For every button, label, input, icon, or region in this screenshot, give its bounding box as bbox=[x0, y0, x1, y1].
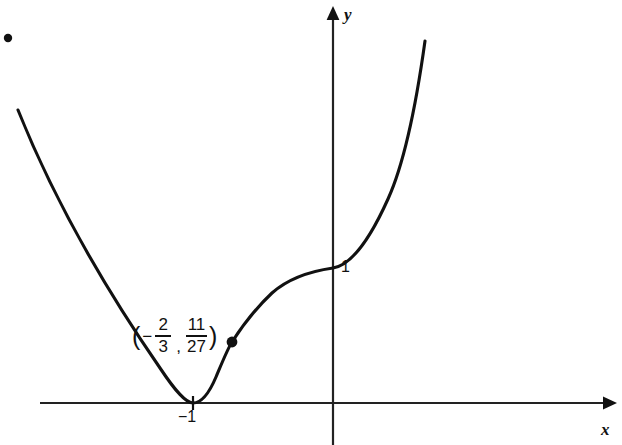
x-numerator: 2 bbox=[158, 316, 169, 334]
y-axis-label: y bbox=[344, 6, 352, 23]
graph-figure: y x −1 1 ( − 2 3 , 11 27 ) bbox=[0, 0, 622, 445]
x-intercept-label: −1 bbox=[178, 409, 196, 425]
inflection-point-label: ( − 2 3 , 11 27 ) bbox=[131, 316, 218, 357]
y-intercept-label: 1 bbox=[341, 259, 350, 275]
inflection-point-marker bbox=[227, 337, 238, 348]
y-coordinate-fraction: 11 27 bbox=[185, 316, 208, 357]
y-denominator: 27 bbox=[186, 338, 207, 356]
minus-sign: − bbox=[141, 328, 154, 345]
close-paren: ) bbox=[208, 324, 218, 349]
cubic-curve-path bbox=[18, 41, 425, 403]
x-denominator: 3 bbox=[158, 338, 169, 356]
coordinate-comma: , bbox=[172, 338, 185, 355]
y-numerator: 11 bbox=[187, 316, 207, 334]
x-coordinate-fraction: 2 3 bbox=[154, 316, 172, 357]
x-axis-arrowhead-icon bbox=[603, 397, 617, 410]
x-axis-label: x bbox=[601, 421, 610, 438]
corner-bullet-icon bbox=[4, 34, 12, 42]
y-axis-arrowhead-icon bbox=[327, 6, 340, 20]
open-paren: ( bbox=[131, 324, 141, 349]
cubic-curve-plot bbox=[0, 0, 622, 445]
